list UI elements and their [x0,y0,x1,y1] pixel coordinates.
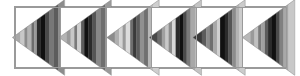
triangle-stripe [169,0,173,76]
triangle-stripe [183,0,187,76]
triangle-stripe [162,0,166,76]
triangle-stripe [207,0,211,76]
frame-divider [106,7,107,68]
triangle-stripe [133,0,136,76]
triangle-stripe [217,0,220,76]
triangle-outline [149,0,201,75]
triangle-stripe-group [193,0,246,76]
triangle-stripe [89,0,93,76]
filmstrip-frame [106,7,151,68]
triangle-stripe [45,0,49,76]
triangle-stripe [250,0,254,76]
triangle-stripe-group [12,0,65,76]
striped-triangle-icon [106,7,150,68]
filmstrip-frame [242,7,287,68]
triangle-stripe-group [242,0,295,76]
triangle-stripe [158,0,162,76]
triangle-stripe [71,0,75,76]
triangle-outline [12,0,64,75]
triangle-stripe [214,0,218,76]
triangle-stripe [107,0,115,76]
triangle-stripe [49,0,54,76]
triangle-stripe [210,0,214,76]
triangle-glyph-wrapper [60,7,104,68]
triangle-stripe [75,0,78,76]
triangle-stripe [122,0,125,76]
triangle-stripe [92,0,96,76]
striped-triangle-icon [242,7,286,68]
triangle-stripe [180,0,184,76]
triangle-stripe [81,0,84,76]
triangle-stripe [34,0,37,76]
triangle-stripe [172,0,176,76]
triangle-stripe [53,0,58,76]
triangle-stripe [37,0,41,76]
triangle-stripe-group [149,0,202,76]
filmstrip-frame [60,7,105,68]
frame-divider [242,7,243,68]
figure-canvas [0,0,300,76]
triangle-stripe [229,0,233,76]
triangle-stripe-group [59,0,112,76]
filmstrip-container [14,6,288,69]
triangle-glyph-wrapper [106,7,150,68]
triangle-stripe [41,0,46,76]
striped-triangle-icon [151,7,195,68]
triangle-stripe [265,0,268,76]
frame-divider [151,7,152,68]
triangle-stripe [24,0,27,76]
triangle-stripe [114,0,119,76]
striped-triangle-icon [196,7,240,68]
triangle-stripe [288,0,295,76]
triangle-glyph-wrapper [242,7,286,68]
triangle-stripe [268,0,272,76]
triangle-stripe [191,0,196,76]
striped-triangle-icon [15,7,59,68]
triangle-stripe [12,0,20,76]
filmstrip-frame [15,7,60,68]
filmstrip-frame [151,7,196,68]
triangle-stripe [254,0,258,76]
triangle-outline [193,0,245,75]
triangle-stripe [187,0,191,76]
triangle-stripe [119,0,123,76]
triangle-stripe [165,0,168,76]
triangle-stripe [144,0,148,76]
triangle-stripe [20,0,24,76]
filmstrip-frame [196,7,241,68]
triangle-stripe [258,0,261,76]
triangle-glyph-wrapper [15,7,59,68]
triangle-stripe [176,0,180,76]
triangle-stripe [136,0,140,76]
triangle-stripe [225,0,229,76]
triangle-stripe [272,0,276,76]
triangle-stripe [96,0,101,76]
triangle-stripe [125,0,130,76]
triangle-outline [59,0,111,75]
frame-divider [60,7,61,68]
triangle-glyph-wrapper [151,7,195,68]
triangle-stripe [220,0,225,76]
triangle-stripe [232,0,236,76]
triangle-outline [242,0,294,75]
triangle-stripe [77,0,81,76]
frame-divider [196,7,197,68]
triangle-stripe [276,0,280,76]
triangle-stripe [283,0,288,76]
triangle-stripe [261,0,265,76]
striped-triangle-icon [60,7,104,68]
triangle-stripe [279,0,283,76]
triangle-glyph-wrapper [196,7,240,68]
triangle-stripe [139,0,143,76]
triangle-stripe [242,0,250,76]
triangle-stripe [130,0,133,76]
triangle-stripe [236,0,240,76]
triangle-stripe [31,0,34,76]
triangle-stripe [67,0,71,76]
triangle-stripe [28,0,32,76]
triangle-stripe [202,0,207,76]
triangle-stripe [85,0,89,76]
